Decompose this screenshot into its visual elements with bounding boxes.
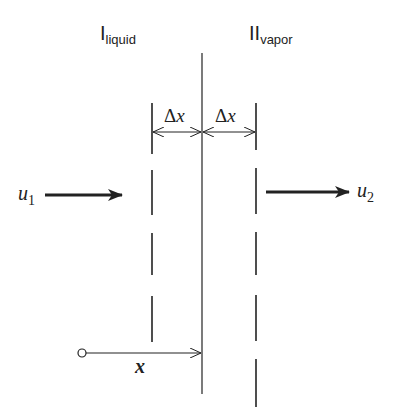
velocity-in-var: u [18, 182, 28, 204]
phase-label-vapor-sub: vapor [260, 32, 293, 47]
diagram-svg [0, 0, 395, 414]
origin-circle-icon [78, 349, 86, 357]
phase-label-vapor: IIvapor [249, 22, 293, 47]
phase-label-liquid-sub: liquid [106, 32, 136, 47]
delta-x-left-label: Δx [164, 105, 185, 127]
phase-label-vapor-main: II [249, 22, 260, 44]
velocity-in-sub: 1 [28, 193, 35, 208]
velocity-out-sub: 2 [367, 190, 374, 205]
delta-x-right-label: Δx [215, 105, 236, 127]
position-var: x [135, 355, 145, 377]
delta-var: x [176, 105, 184, 126]
velocity-out-label: u2 [357, 179, 374, 206]
delta-var: x [227, 105, 235, 126]
interface-diagram: Iliquid IIvapor Δx Δx u1 u2 x [0, 0, 395, 414]
velocity-out-var: u [357, 179, 367, 201]
velocity-in-label: u1 [18, 182, 35, 209]
delta-symbol: Δ [164, 105, 176, 126]
phase-label-liquid: Iliquid [100, 22, 136, 47]
delta-symbol: Δ [215, 105, 227, 126]
position-label: x [135, 355, 145, 378]
